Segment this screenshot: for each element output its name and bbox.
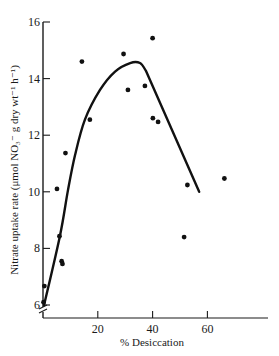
fitted-curve xyxy=(44,62,199,305)
data-point xyxy=(182,235,187,240)
y-tick-label: 16 xyxy=(28,15,40,29)
data-point xyxy=(57,234,62,239)
ticks: 6810121416204060 xyxy=(28,15,213,336)
data-point xyxy=(41,300,46,305)
x-axis-label: % Desiccation xyxy=(120,336,184,348)
data-point xyxy=(156,119,161,124)
y-tick-label: 14 xyxy=(28,72,40,86)
y-tick-label: 10 xyxy=(28,185,40,199)
fitted-curve-path xyxy=(44,62,199,305)
data-point xyxy=(63,151,68,156)
data-point xyxy=(55,187,60,192)
data-point xyxy=(143,84,148,89)
data-point xyxy=(126,88,131,93)
data-point xyxy=(87,117,92,122)
y-tick-label: 12 xyxy=(28,128,40,142)
data-point xyxy=(60,262,65,267)
data-point xyxy=(185,183,190,188)
x-tick-label: 20 xyxy=(92,322,104,336)
data-point xyxy=(222,176,227,181)
y-axis-label: Nitrate uptake rate (μmol NO₃⁻ g dry wt⁻… xyxy=(8,65,21,275)
data-point xyxy=(80,59,85,64)
data-point xyxy=(150,116,155,121)
x-tick-label: 60 xyxy=(201,322,213,336)
axes xyxy=(39,22,268,318)
data-point xyxy=(121,52,126,57)
data-point xyxy=(42,284,47,289)
y-tick-label: 6 xyxy=(34,298,40,312)
data-point xyxy=(150,36,155,41)
data-points xyxy=(41,36,227,305)
y-tick-label: 8 xyxy=(34,241,40,255)
chart: 6810121416204060 % Desiccation Nitrate u… xyxy=(0,0,279,356)
x-tick-label: 40 xyxy=(147,322,159,336)
